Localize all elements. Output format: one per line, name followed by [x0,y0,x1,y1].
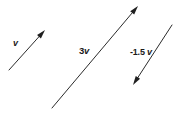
vector-label-v-symbol: v [13,38,18,48]
vector-arrow-3v [52,6,138,108]
vector-label-negative-1-5v-scalar: -1.5 [130,47,147,57]
vector-label-negative-1-5v: -1.5 v [130,48,152,57]
vector-label-3v: 3v [79,46,89,56]
arrowhead-negative-1-5v [133,76,140,85]
vector-diagram-canvas [0,0,182,115]
vector-shaft-3v [52,11,134,108]
vector-label-3v-symbol: v [84,45,89,56]
vector-scaling-figure: v 3v -1.5 v [0,0,182,115]
vector-label-negative-1-5v-symbol: v [147,47,152,57]
vector-label-v: v [13,39,18,48]
vector-arrow-v [9,30,45,70]
